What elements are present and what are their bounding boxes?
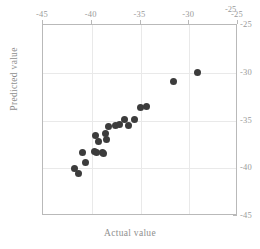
data-point [95,138,102,145]
data-point [82,159,89,166]
data-point [125,122,132,129]
x-axis-title: Actual value [0,228,260,238]
y-tick-label: -40 [240,162,252,172]
x-tick-label: -40 [85,9,97,19]
gridline-vertical [141,25,142,214]
data-point [131,116,138,123]
gridline-horizontal [43,73,236,74]
data-point [79,149,86,156]
plot-area [42,24,237,215]
x-tick-label: -30 [182,9,194,19]
data-point [194,69,201,76]
corner-tick-label: -25 [225,4,236,14]
gridline-vertical [189,25,190,214]
x-tick-mark [237,20,238,24]
data-point [105,123,112,130]
y-tick-label: -25 [240,19,252,29]
data-point [170,78,177,85]
gridline-vertical [92,25,93,214]
x-tick-label: -45 [36,9,48,19]
scatter-plot-figure: -45-40-35-30-25 -45-40-35-30-25 -25 Actu… [0,0,260,249]
y-axis-title: Predicted value [9,19,19,139]
data-point [103,136,110,143]
data-point [75,170,82,177]
y-tick-label: -45 [240,210,252,220]
data-point [100,150,107,157]
data-point [143,103,150,110]
gridline-horizontal [43,121,236,122]
y-tick-mark [233,215,237,216]
x-tick-label: -35 [134,9,146,19]
y-tick-label: -30 [240,67,252,77]
y-tick-label: -35 [240,115,252,125]
